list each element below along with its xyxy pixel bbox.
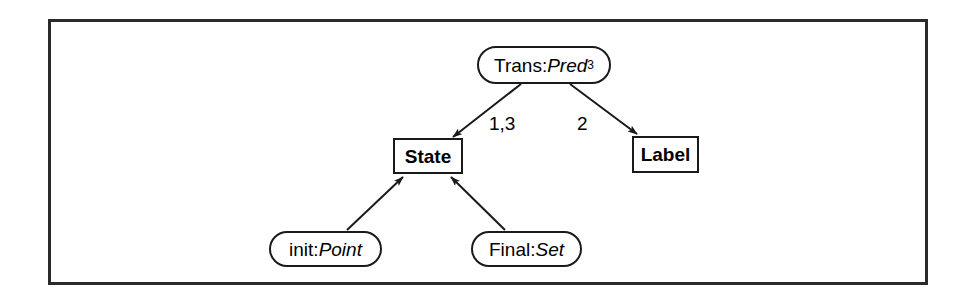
node-trans-prefix: Trans: xyxy=(494,56,547,75)
node-state[interactable]: State xyxy=(394,139,462,173)
node-final-prefix: Final: xyxy=(489,240,535,259)
edge-label-trans-state: 1,3 xyxy=(489,114,515,133)
node-init-type: Point xyxy=(319,240,362,259)
node-trans-type: Pred xyxy=(547,56,587,75)
diagram-figure: Trans:Pred3 State Label init:Point Final… xyxy=(0,0,973,305)
edge-label-trans-label: 2 xyxy=(577,114,588,133)
node-label[interactable]: Label xyxy=(633,137,698,172)
node-init[interactable]: init:Point xyxy=(270,232,381,266)
node-final-type: Set xyxy=(535,240,564,259)
node-trans[interactable]: Trans:Pred3 xyxy=(478,47,610,83)
node-final[interactable]: Final:Set xyxy=(472,232,581,266)
node-label-prefix: Label xyxy=(641,145,691,164)
node-init-prefix: init: xyxy=(289,240,319,259)
node-state-prefix: State xyxy=(405,147,451,166)
